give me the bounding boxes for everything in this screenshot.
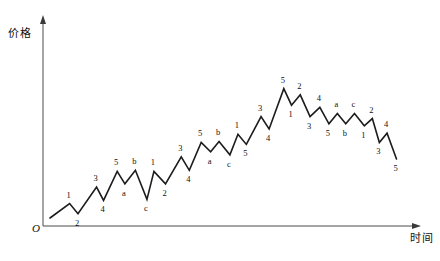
wave-point-label: a — [122, 189, 126, 198]
wave-point-label: 1 — [66, 190, 70, 199]
y-axis-title: 价格 — [8, 24, 31, 40]
wave-point-label: 2 — [369, 105, 373, 114]
wave-point-label: 5 — [281, 75, 285, 84]
wave-point-label: 4 — [384, 120, 388, 129]
wave-point-label: 1 — [288, 110, 292, 119]
wave-point-label: b — [343, 129, 347, 138]
wave-point-label: 4 — [266, 134, 270, 143]
wave-point-label: 2 — [297, 82, 301, 91]
wave-point-label: b — [216, 128, 220, 137]
elliott-wave-chart: 价格 时间 O 12345abc12345abc1534512345abc123… — [0, 0, 440, 261]
wave-point-label: c — [352, 100, 356, 109]
wave-point-label: 3 — [307, 121, 311, 130]
wave-point-label: 1 — [361, 131, 365, 140]
wave-point-label: 2 — [162, 189, 166, 198]
axes-group — [40, 15, 421, 229]
wave-point-label: 3 — [376, 147, 380, 156]
wave-point-label: 3 — [93, 174, 97, 183]
y-axis-arrow-icon — [40, 15, 46, 24]
wave-point-label: 3 — [258, 103, 262, 112]
wave-point-label: 4 — [317, 94, 321, 103]
wave-point-label: c — [227, 160, 231, 169]
wave-point-label: 5 — [198, 129, 202, 138]
wave-point-label: 5 — [393, 164, 397, 173]
x-axis-title: 时间 — [410, 229, 433, 245]
wave-point-label: 5 — [243, 149, 247, 158]
wave-polyline — [50, 89, 397, 218]
wave-point-label: 4 — [100, 205, 104, 214]
wave-point-label: a — [208, 157, 212, 166]
wave-point-label: 1 — [151, 158, 155, 167]
wave-point-label: c — [144, 204, 148, 213]
wave-point-label: 1 — [235, 121, 239, 130]
wave-point-label: 5 — [114, 158, 118, 167]
wave-point-label: a — [334, 100, 338, 109]
wave-point-label: b — [132, 157, 136, 166]
origin-label: O — [32, 222, 40, 234]
wave-point-label: 2 — [75, 219, 79, 228]
wave-point-label: 5 — [326, 129, 330, 138]
wave-point-label: 3 — [178, 144, 182, 153]
wave-point-label: 4 — [186, 175, 190, 184]
